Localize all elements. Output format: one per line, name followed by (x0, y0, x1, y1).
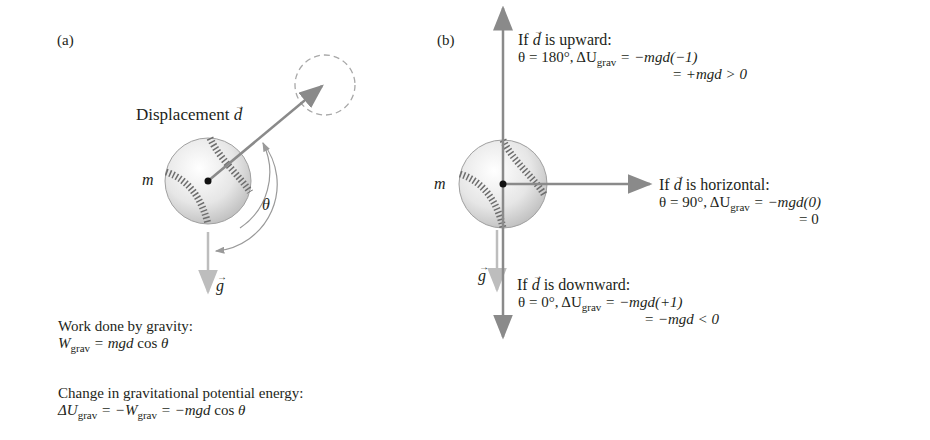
theta-label: θ (262, 196, 270, 213)
sub: grav (597, 56, 617, 68)
delta-u: ΔU (58, 402, 78, 418)
downward-result: = −mgd < 0 (644, 311, 719, 328)
upward-result: = +mgd > 0 (672, 66, 747, 83)
pe-equation: ΔUgrav = −Wgrav = −mgd cos θ (58, 402, 245, 419)
sub: grav (582, 301, 602, 313)
horizontal-result: = 0 (799, 211, 819, 228)
txt: If (659, 176, 674, 193)
displacement-label: Displacement d (136, 106, 242, 123)
vector-d: d (533, 31, 541, 48)
displacement-text: Displacement (136, 105, 229, 124)
upward-heading: If d is upward: (518, 31, 612, 48)
downward-equation: θ = 0°, ΔUgrav = −mgd(+1) (518, 294, 683, 311)
vector-d: d (532, 276, 540, 293)
mass-label: m (142, 171, 154, 188)
txt: θ = 180°, ΔU (518, 49, 597, 65)
vector-g: g (478, 267, 486, 284)
work-equation: Wgrav = mgd cos θ (58, 335, 168, 352)
vector-g: g (216, 277, 224, 294)
txt: = −mgd(−1) (616, 49, 697, 65)
theta: θ (161, 335, 168, 351)
panel-a-graphics (165, 55, 355, 292)
txt: If (517, 276, 532, 293)
txt: is horizontal: (682, 176, 770, 193)
diagram-graphics (0, 0, 930, 440)
sub: grav (78, 409, 98, 421)
gravity-label: g (216, 277, 224, 294)
eq-part: = −mgd (157, 402, 211, 418)
sub: grav (71, 342, 91, 354)
txt: is upward: (541, 31, 612, 48)
upward-equation: θ = 180°, ΔUgrav = −mgd(−1) (518, 49, 698, 66)
txt: θ = 0°, ΔU (518, 294, 582, 310)
theta: θ (238, 402, 245, 418)
mass-label-b: m (434, 175, 446, 192)
horizontal-heading: If d is horizontal: (659, 176, 770, 193)
vector-d: d (234, 106, 243, 123)
eq-part: = −W (97, 402, 137, 418)
horizontal-equation: θ = 90°, ΔUgrav = −mgd(0) (659, 194, 821, 211)
sub: grav (730, 201, 750, 213)
eq-part: cos (134, 335, 162, 351)
work-heading: Work done by gravity: (58, 318, 193, 335)
panel-b-label: (b) (437, 32, 455, 49)
panel-a-label: (a) (57, 32, 74, 49)
txt: θ = 90°, ΔU (659, 194, 730, 210)
eq-part: = mgd (90, 335, 133, 351)
final-position-circle (295, 55, 355, 115)
eq-part: cos (211, 402, 239, 418)
sub: grav (137, 409, 157, 421)
txt: = −mgd(+1) (601, 294, 682, 310)
pe-heading: Change in gravitational potential energy… (58, 385, 304, 402)
w-symbol: W (58, 335, 71, 351)
displacement-arrow (208, 86, 322, 181)
gravity-label-b: g (478, 267, 486, 284)
vector-d: d (674, 176, 682, 193)
txt: If (518, 31, 533, 48)
txt: is downward: (540, 276, 631, 293)
txt: = −mgd(0) (750, 194, 821, 210)
downward-heading: If d is downward: (517, 276, 630, 293)
